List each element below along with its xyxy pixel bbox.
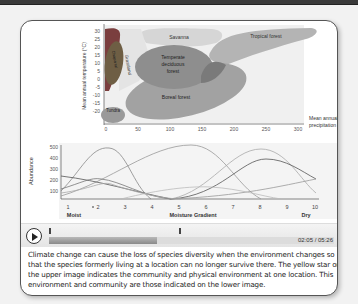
svg-text:200: 200: [50, 177, 59, 183]
caption-text: Climate change can cause the loss of spe…: [28, 250, 338, 290]
label-moisture-gradient: Moisture Gradient: [169, 212, 216, 218]
abundance-chart: 500400300 200100 Abundance 123 456 789 1…: [21, 21, 338, 223]
svg-text:5: 5: [177, 204, 180, 210]
seek-bar[interactable]: [49, 237, 334, 244]
svg-text:300: 300: [50, 166, 59, 172]
caption-line: environment and community are those indi…: [28, 280, 338, 290]
svg-text:7: 7: [231, 204, 234, 210]
chapter-marker: [179, 228, 181, 234]
svg-text:1: 1: [66, 204, 69, 210]
svg-text:2: 2: [96, 204, 99, 210]
y-axis-label-2: Abundance: [28, 157, 34, 185]
svg-text:6: 6: [204, 204, 207, 210]
caption-line: that the species formerly living at a lo…: [28, 260, 338, 270]
svg-text:100: 100: [50, 188, 59, 194]
media-player-controls: 02:05 / 05:26: [21, 223, 338, 247]
window-top-bar: [0, 0, 358, 5]
label-dry: Dry: [301, 212, 311, 218]
svg-text:8: 8: [258, 204, 261, 210]
caption-line: the upper image indicates the community …: [28, 270, 338, 280]
play-button[interactable]: [26, 228, 42, 244]
time-display: 02:05 / 05:26: [298, 237, 333, 243]
svg-text:500: 500: [50, 144, 59, 150]
caption-line: Climate change can cause the loss of spe…: [28, 250, 338, 260]
media-panel: Savanna Tropical forest Temperate decidu…: [20, 20, 338, 296]
start-marker: [49, 228, 51, 234]
svg-text:400: 400: [50, 155, 59, 161]
svg-text:4: 4: [150, 204, 153, 210]
label-moist: Moist: [67, 212, 82, 218]
seek-bar-progress: [49, 237, 157, 244]
svg-text:10: 10: [312, 204, 318, 210]
svg-text:9: 9: [285, 204, 288, 210]
svg-text:3: 3: [123, 204, 126, 210]
